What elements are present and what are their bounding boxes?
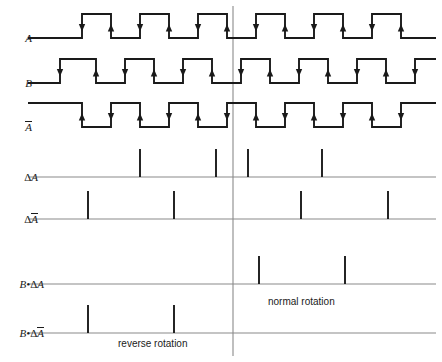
edge-arrow-down-icon bbox=[195, 24, 201, 32]
timing-diagram-canvas bbox=[0, 0, 442, 362]
edge-arrow-down-icon bbox=[296, 69, 302, 77]
edge-arrow-down-icon bbox=[137, 24, 143, 32]
row-label-BdAbar: B•ΔA bbox=[0, 327, 50, 339]
edge-arrow-down-icon bbox=[108, 113, 114, 121]
waveform-BdAbar bbox=[28, 305, 436, 333]
label-text-BdAbar: A bbox=[37, 327, 44, 339]
edge-arrow-up-icon bbox=[369, 113, 375, 121]
edge-arrow-up-icon bbox=[267, 69, 273, 77]
annotation-reverse: reverse rotation bbox=[118, 338, 187, 349]
edge-arrow-up-icon bbox=[383, 69, 389, 77]
edge-arrow-down-icon bbox=[354, 69, 360, 77]
waveform-A bbox=[28, 14, 436, 38]
edge-arrow-up-icon bbox=[253, 113, 259, 121]
edge-arrow-up-icon bbox=[224, 24, 230, 32]
edge-arrow-up-icon bbox=[137, 113, 143, 121]
label-text-A: A bbox=[25, 32, 32, 44]
row-label-dA: ΔA bbox=[0, 172, 44, 183]
timing-diagram-figure: ABAΔAΔAB•ΔAB•ΔA reverse rotationnormal r… bbox=[0, 0, 442, 362]
edge-arrow-down-icon bbox=[224, 113, 230, 121]
edge-arrow-up-icon bbox=[311, 113, 317, 121]
label-text-dAbar: A bbox=[31, 213, 38, 225]
edge-arrow-down-icon bbox=[253, 24, 259, 32]
edge-arrow-up-icon bbox=[282, 24, 288, 32]
edge-arrow-down-icon bbox=[57, 69, 63, 77]
edge-arrow-down-icon bbox=[311, 24, 317, 32]
edge-arrow-down-icon bbox=[180, 69, 186, 77]
waveform-dAbar bbox=[28, 191, 436, 219]
edge-arrow-up-icon bbox=[325, 69, 331, 77]
edge-arrow-up-icon bbox=[398, 24, 404, 32]
edge-arrow-down-icon bbox=[122, 69, 128, 77]
edge-arrow-down-icon bbox=[166, 113, 172, 121]
edge-arrow-down-icon bbox=[79, 24, 85, 32]
edge-arrow-down-icon bbox=[340, 113, 346, 121]
edge-arrow-up-icon bbox=[195, 113, 201, 121]
wave-path-B bbox=[28, 59, 436, 83]
row-label-BdA: B•ΔA bbox=[0, 279, 50, 290]
edge-arrow-up-icon bbox=[93, 69, 99, 77]
edge-arrow-down-icon bbox=[282, 113, 288, 121]
label-prefix-BdA: B• bbox=[20, 278, 31, 290]
label-prefix-BdAbar: B• bbox=[20, 327, 31, 339]
edge-arrow-down-icon bbox=[412, 69, 418, 77]
row-label-Abar: A bbox=[0, 121, 38, 133]
edge-arrow-up-icon bbox=[166, 24, 172, 32]
edge-arrow-down-icon bbox=[238, 69, 244, 77]
annotation-normal: normal rotation bbox=[268, 296, 335, 307]
label-text-BdA: A bbox=[37, 278, 44, 290]
label-text-Abar: A bbox=[25, 121, 32, 133]
row-label-A: A bbox=[0, 33, 38, 44]
waveform-Abar bbox=[28, 103, 436, 127]
label-text-B: B bbox=[25, 77, 32, 89]
edge-arrow-up-icon bbox=[340, 24, 346, 32]
edge-arrow-up-icon bbox=[108, 24, 114, 32]
edge-arrow-up-icon bbox=[209, 69, 215, 77]
row-label-dAbar: ΔA bbox=[0, 213, 44, 225]
waveform-B bbox=[28, 59, 436, 83]
label-text-dA: A bbox=[31, 171, 38, 183]
row-label-B: B bbox=[0, 78, 38, 89]
edge-arrow-down-icon bbox=[398, 113, 404, 121]
waveform-BdA bbox=[28, 256, 436, 284]
edge-arrow-down-icon bbox=[369, 24, 375, 32]
waveform-dA bbox=[28, 149, 436, 177]
wave-path-A bbox=[28, 14, 436, 38]
edge-arrow-up-icon bbox=[151, 69, 157, 77]
edge-arrow-up-icon bbox=[79, 113, 85, 121]
wave-path-Abar bbox=[28, 103, 436, 127]
